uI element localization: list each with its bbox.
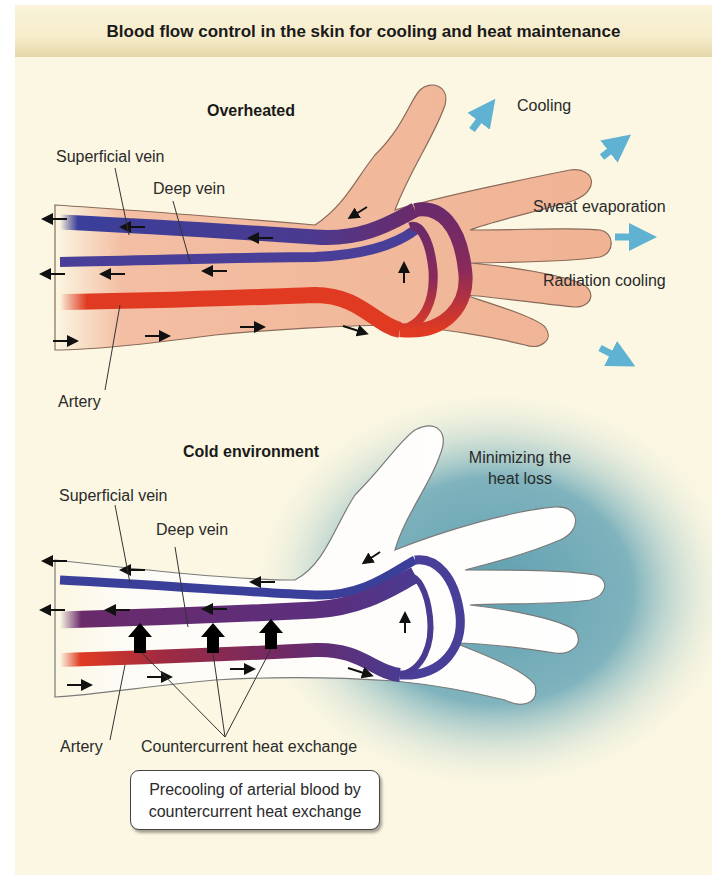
note-line-1: Minimizing the [455, 447, 585, 468]
callout-line-1: Precooling of arterial blood by [131, 779, 379, 801]
label-artery: Artery [58, 393, 101, 411]
cold-heading: Cold environment [183, 443, 319, 461]
label-sweat-evaporation: Sweat evaporation [533, 198, 666, 216]
label-cooling: Cooling [517, 97, 571, 115]
label-superficial-vein: Superficial vein [56, 148, 165, 166]
diagram-panel: Blood flow control in the skin for cooli… [15, 5, 712, 875]
label-countercurrent: Countercurrent heat exchange [141, 738, 357, 756]
cold-hand [43, 385, 712, 795]
illustration [15, 5, 712, 875]
label-minimizing-heat-loss: Minimizing the heat loss [455, 447, 585, 489]
callout-line-2: countercurrent heat exchange [131, 801, 379, 823]
label-superficial-vein-cold: Superficial vein [59, 487, 168, 505]
note-line-2: heat loss [455, 468, 585, 489]
label-radiation-cooling: Radiation cooling [543, 272, 666, 290]
overheated-hand [43, 85, 643, 390]
label-artery-cold: Artery [60, 738, 103, 756]
callout-precooling: Precooling of arterial blood by counterc… [130, 770, 380, 830]
label-deep-vein-cold: Deep vein [156, 521, 228, 539]
overheated-heading: Overheated [207, 102, 295, 120]
label-deep-vein: Deep vein [153, 180, 225, 198]
